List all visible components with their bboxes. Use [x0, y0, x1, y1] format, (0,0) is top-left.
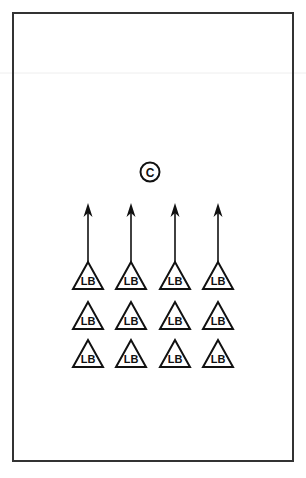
linebacker-label: LB [211, 353, 226, 365]
linebacker-marker: LB [116, 340, 146, 367]
center-marker: C [141, 163, 160, 182]
linebacker-grid: LBLBLBLBLBLBLBLBLBLBLBLB [73, 203, 233, 367]
linebacker-marker: LB [73, 302, 103, 329]
linebacker-marker: LB [160, 340, 190, 367]
linebacker-label: LB [168, 353, 183, 365]
linebacker-label: LB [168, 275, 183, 287]
linebacker-label: LB [124, 353, 139, 365]
linebacker-marker: LB [116, 262, 146, 289]
linebacker-marker: LB [73, 340, 103, 367]
linebacker-label: LB [124, 315, 139, 327]
linebacker-marker: LB [160, 262, 190, 289]
linebacker-label: LB [168, 315, 183, 327]
linebacker-marker: LB [203, 262, 233, 289]
linebacker-marker: LB [160, 302, 190, 329]
linebacker-label: LB [81, 275, 96, 287]
linebacker-label: LB [81, 315, 96, 327]
linebacker-marker: LB [203, 340, 233, 367]
linebacker-label: LB [211, 275, 226, 287]
drill-diagram: C LBLBLBLBLBLBLBLBLBLBLBLB [0, 0, 306, 478]
linebacker-label: LB [211, 315, 226, 327]
linebacker-marker: LB [203, 302, 233, 329]
center-label: C [146, 166, 155, 180]
linebacker-label: LB [124, 275, 139, 287]
linebacker-label: LB [81, 353, 96, 365]
linebacker-marker: LB [116, 302, 146, 329]
field-border [13, 13, 293, 461]
linebacker-marker: LB [73, 262, 103, 289]
